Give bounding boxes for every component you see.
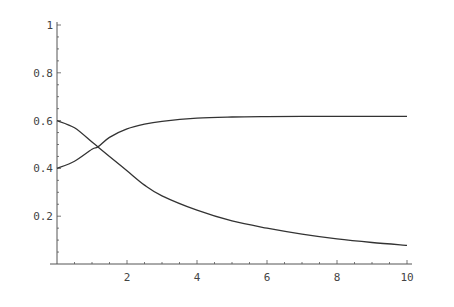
falling-curve: [57, 121, 407, 246]
y-tick-label: 0.8: [33, 67, 53, 80]
x-tick-label: 4: [194, 271, 201, 284]
y-tick-label: 0.6: [33, 115, 53, 128]
ticks: 2468100.20.40.60.81: [33, 19, 414, 284]
x-tick-label: 10: [400, 271, 413, 284]
series: [57, 116, 407, 245]
y-tick-label: 0.4: [33, 162, 53, 175]
x-tick-label: 6: [264, 271, 271, 284]
chart-canvas: 2468100.20.40.60.81: [0, 0, 454, 307]
x-tick-label: 8: [334, 271, 341, 284]
y-tick-label: 1: [46, 19, 53, 32]
rising-curve: [57, 116, 407, 168]
axes: [50, 22, 412, 264]
x-tick-label: 2: [124, 271, 131, 284]
y-tick-label: 0.2: [33, 210, 53, 223]
line-chart: 2468100.20.40.60.81: [0, 0, 454, 307]
